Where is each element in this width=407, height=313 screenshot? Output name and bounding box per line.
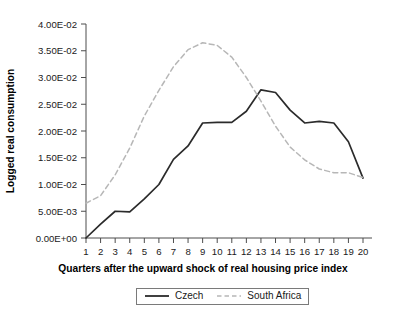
y-axis-title: Logged real consumption <box>5 69 16 194</box>
x-tick-label: 17 <box>314 246 325 257</box>
legend-item-czech: Czech <box>144 291 203 301</box>
x-axis-title: Quarters after the upward shock of real … <box>58 263 348 274</box>
x-tick-label: 19 <box>343 246 354 257</box>
x-tick-label: 2 <box>98 246 103 257</box>
x-tick-label: 4 <box>127 246 133 257</box>
x-tick-label: 8 <box>185 246 190 257</box>
x-tick-label: 10 <box>212 246 223 257</box>
series-line-czech <box>86 90 363 238</box>
x-tick-label: 1 <box>83 246 88 257</box>
y-tick-label: 3.00E-02 <box>38 72 77 83</box>
dashed-line-swatch <box>216 292 242 300</box>
y-tick-label: 2.00E-02 <box>38 126 77 137</box>
chart-figure: 0.00E+005.00E-031.00E-021.50E-022.00E-02… <box>0 0 407 313</box>
x-tick-label: 13 <box>256 246 267 257</box>
x-tick-label: 6 <box>156 246 161 257</box>
y-tick-label: 3.50E-02 <box>38 45 77 56</box>
y-axis-ticks: 0.00E+005.00E-031.00E-021.50E-022.00E-02… <box>36 19 86 244</box>
solid-line-swatch <box>144 292 170 300</box>
y-tick-label: 1.00E-02 <box>38 179 77 190</box>
chart-legend: Czech South Africa <box>136 288 309 305</box>
x-tick-label: 14 <box>270 246 281 257</box>
x-axis-ticks: 1234567891011121314151617181920 <box>83 238 368 257</box>
x-tick-label: 9 <box>200 246 205 257</box>
y-tick-label: 5.00E-03 <box>38 206 77 217</box>
x-tick-label: 20 <box>358 246 369 257</box>
x-tick-label: 11 <box>227 246 237 257</box>
x-tick-label: 16 <box>299 246 310 257</box>
legend-label-south-africa: South Africa <box>247 291 301 301</box>
line-chart-plot: 0.00E+005.00E-031.00E-021.50E-022.00E-02… <box>0 0 407 313</box>
y-tick-label: 2.50E-02 <box>38 99 77 110</box>
y-tick-label: 1.50E-02 <box>38 152 77 163</box>
x-tick-label: 15 <box>285 246 296 257</box>
x-tick-label: 5 <box>142 246 147 257</box>
y-tick-label: 4.00E-02 <box>38 19 77 30</box>
legend-label-czech: Czech <box>175 291 203 301</box>
y-tick-label: 0.00E+00 <box>36 233 77 244</box>
x-tick-label: 7 <box>171 246 176 257</box>
legend-item-south-africa: South Africa <box>216 291 301 301</box>
x-tick-label: 18 <box>329 246 340 257</box>
x-tick-label: 3 <box>112 246 117 257</box>
x-tick-label: 12 <box>241 246 252 257</box>
